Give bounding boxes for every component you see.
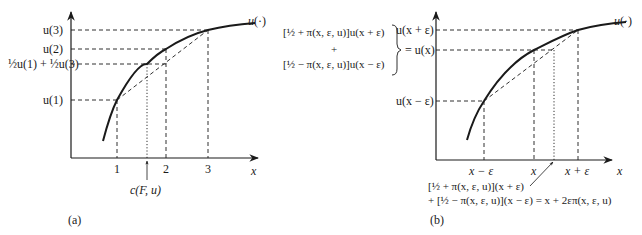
utility-curve-b (467, 22, 626, 140)
y-label-u2: u(2) (43, 43, 63, 55)
y-label-u1: u(1) (43, 94, 63, 106)
caption-a: (a) (68, 214, 81, 226)
y-label-u-x: = u(x) (405, 44, 435, 56)
x-tick-x-plus-eps: x + ε (565, 165, 589, 177)
annotation-line-3: [½ − π(x, ε, u)]u(x − ε) (283, 58, 384, 70)
y-label-u-x-minus-eps: u(x − ε) (396, 95, 434, 107)
curve-label-b: u(·) (614, 15, 632, 27)
annotation-plus: + (331, 43, 337, 55)
annotation-line-1: [½ + π(x, ε, u)]u(x + ε) (283, 26, 384, 38)
caption-b: (b) (430, 214, 444, 226)
x-tick-3: 3 (205, 163, 211, 175)
bottom-formula-line-2: + [½ − π(x, ε, u)](x − ε) = x + 2επ(x, ε… (428, 194, 611, 206)
bottom-formula-line-1: [½ + π(x, ε, u)](x + ε) (428, 180, 524, 192)
x-tick-2: 2 (163, 163, 169, 175)
x-axis-label-a: x (251, 165, 256, 177)
y-label-u3: u(3) (43, 24, 63, 36)
curve-label-a: u(·) (248, 15, 266, 27)
y-label-u-x-plus-eps: u(x + ε) (396, 24, 434, 36)
y-label-expected-utility: ½u(1) + ½u(3) (8, 58, 79, 70)
panel-a (71, 12, 258, 180)
guides-b (436, 30, 578, 160)
x-tick-x: x (531, 165, 536, 177)
utility-curve-a (103, 23, 255, 141)
certainty-equivalent-label: c(F, u) (130, 184, 161, 196)
x-axis-label-b: x (617, 165, 622, 177)
x-tick-x-minus-eps: x − ε (469, 165, 493, 177)
guides-a (71, 30, 208, 158)
x-tick-1: 1 (114, 163, 120, 175)
